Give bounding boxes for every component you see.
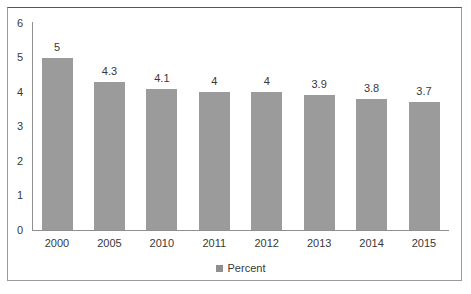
y-tick-label: 6 — [5, 17, 23, 30]
bar-2015 — [409, 102, 440, 230]
y-axis-line — [32, 22, 33, 230]
y-tick-label: 0 — [5, 224, 23, 237]
bar-2012 — [251, 92, 282, 230]
bar-value-label: 4.3 — [89, 65, 129, 78]
x-axis-line — [32, 230, 449, 231]
x-tick-label: 2015 — [398, 237, 450, 250]
x-tick-label: 2005 — [83, 237, 135, 250]
bar-value-label: 3.9 — [299, 78, 339, 91]
bar-value-label: 5 — [37, 41, 77, 54]
y-tick-label: 5 — [5, 51, 23, 64]
legend-swatch-icon — [216, 265, 223, 272]
bar-value-label: 4.1 — [142, 72, 182, 85]
x-tick-label: 2013 — [293, 237, 345, 250]
bar-value-label: 3.8 — [352, 82, 392, 95]
bar-value-label: 4 — [247, 75, 287, 88]
bar-chart-figure: 0123456 54.34.1443.93.83.7 2000200520102… — [7, 7, 462, 281]
y-tick-label: 3 — [5, 120, 23, 133]
y-tick-label: 4 — [5, 86, 23, 99]
bar-2011 — [199, 92, 230, 230]
x-tick-label: 2012 — [241, 237, 293, 250]
x-tick-label: 2014 — [346, 237, 398, 250]
bar-2014 — [356, 99, 387, 230]
x-tick-label: 2000 — [31, 237, 83, 250]
x-tick-label: 2010 — [136, 237, 188, 250]
bar-2005 — [94, 82, 125, 230]
y-tick-label: 1 — [5, 189, 23, 202]
bar-2000 — [42, 58, 73, 231]
chart-page: 0123456 54.34.1443.93.83.7 2000200520102… — [0, 0, 471, 294]
plot-area: 0123456 54.34.1443.93.83.7 2000200520102… — [1, 1, 471, 294]
bar-2013 — [304, 95, 335, 230]
bar-value-label: 4 — [194, 75, 234, 88]
y-tick-label: 2 — [5, 155, 23, 168]
legend: Percent — [32, 262, 449, 275]
x-tick-label: 2011 — [188, 237, 240, 250]
legend-label: Percent — [228, 262, 266, 275]
bar-value-label: 3.7 — [404, 85, 444, 98]
bar-2010 — [146, 89, 177, 230]
